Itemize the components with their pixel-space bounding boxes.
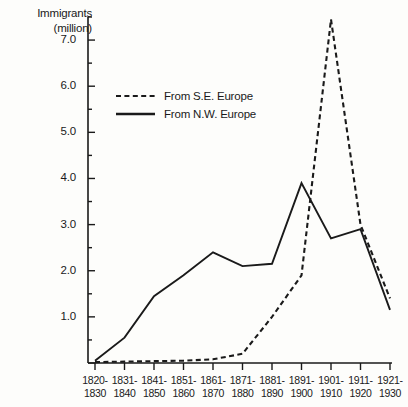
y-tick-label: 3.0 <box>30 219 76 231</box>
y-tick-label: 5.0 <box>30 126 76 138</box>
y-tick-label: 7.0 <box>30 34 76 46</box>
y-tick-label: 4.0 <box>30 172 76 184</box>
series-line-solid <box>95 183 390 361</box>
data-series <box>95 19 390 362</box>
axes <box>88 17 392 370</box>
x-tick-label: 1921- 1930 <box>367 374 408 399</box>
legend-label: From N.W. Europe <box>164 108 256 120</box>
series-line-dashed <box>95 19 390 362</box>
legend-label: From S.E. Europe <box>164 90 253 102</box>
y-tick-label: 2.0 <box>30 265 76 277</box>
y-tick-label: 6.0 <box>30 80 76 92</box>
y-tick-label: 1.0 <box>30 311 76 323</box>
legend-marks <box>116 96 155 114</box>
